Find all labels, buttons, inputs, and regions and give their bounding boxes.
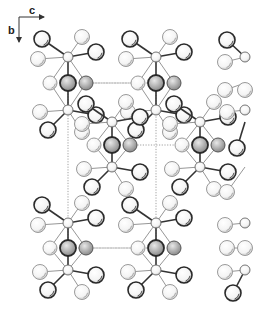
atom-light: [175, 138, 189, 152]
atom-dark: [40, 282, 56, 298]
atom-light: [220, 185, 235, 200]
atom-light: [131, 241, 145, 255]
atom-dark: [229, 140, 245, 156]
structure: [31, 30, 253, 302]
atom-dark: [88, 267, 104, 283]
atom-dark: [34, 31, 50, 47]
atom-dark: [88, 44, 104, 60]
atom-light: [163, 117, 178, 132]
atom-light: [119, 52, 134, 67]
molecular-unit: [31, 196, 105, 300]
atom-light: [75, 117, 90, 132]
atom-light: [75, 30, 90, 45]
atom-light: [238, 83, 253, 98]
atom-light: [31, 218, 46, 233]
atom-dark: [172, 179, 188, 195]
atom-light: [218, 218, 233, 233]
atom-light: [121, 265, 136, 280]
atom-light: [163, 285, 178, 300]
atom-dark: [84, 179, 100, 195]
atom-light: [218, 83, 233, 98]
atom-light: [163, 196, 178, 211]
atom-light: [119, 95, 134, 110]
atom-dark: [132, 164, 148, 180]
atom-dark: [122, 197, 138, 213]
molecular-unit: [75, 95, 149, 197]
atom-dark: [176, 267, 192, 283]
crystal-structure-diagram: [0, 0, 262, 311]
atom-light: [87, 138, 101, 152]
atom-light: [163, 30, 178, 45]
atom-dark: [219, 32, 235, 48]
atom-dark: [166, 96, 182, 112]
atom-dark: [88, 210, 104, 226]
atom-light: [31, 52, 46, 67]
molecular-unit: [119, 196, 193, 300]
atom-light: [33, 105, 48, 120]
atom-dark: [40, 122, 56, 138]
atom-dark: [122, 31, 138, 47]
atom-dark: [176, 44, 192, 60]
atom-light: [119, 218, 134, 233]
atom-light: [238, 241, 253, 256]
atom-light: [119, 182, 134, 197]
atom-light: [165, 162, 180, 177]
atom-dark: [220, 164, 236, 180]
atom-dark: [225, 285, 241, 301]
atom-light: [33, 265, 48, 280]
atom-light: [77, 162, 92, 177]
atom-light: [207, 95, 222, 110]
atom-light: [75, 196, 90, 211]
atom-light: [75, 285, 90, 300]
atom-light: [220, 241, 235, 256]
atom-light: [207, 182, 222, 197]
atom-dark: [176, 210, 192, 226]
atom-dark: [34, 197, 50, 213]
atom-light: [218, 55, 233, 70]
atom-light: [220, 105, 235, 120]
atom-light: [43, 76, 57, 90]
atom-light: [43, 241, 57, 255]
atom-light: [131, 76, 145, 90]
atom-dark: [132, 109, 148, 125]
atom-dark: [128, 282, 144, 298]
atom-light: [218, 265, 233, 280]
atom-dark: [78, 96, 94, 112]
